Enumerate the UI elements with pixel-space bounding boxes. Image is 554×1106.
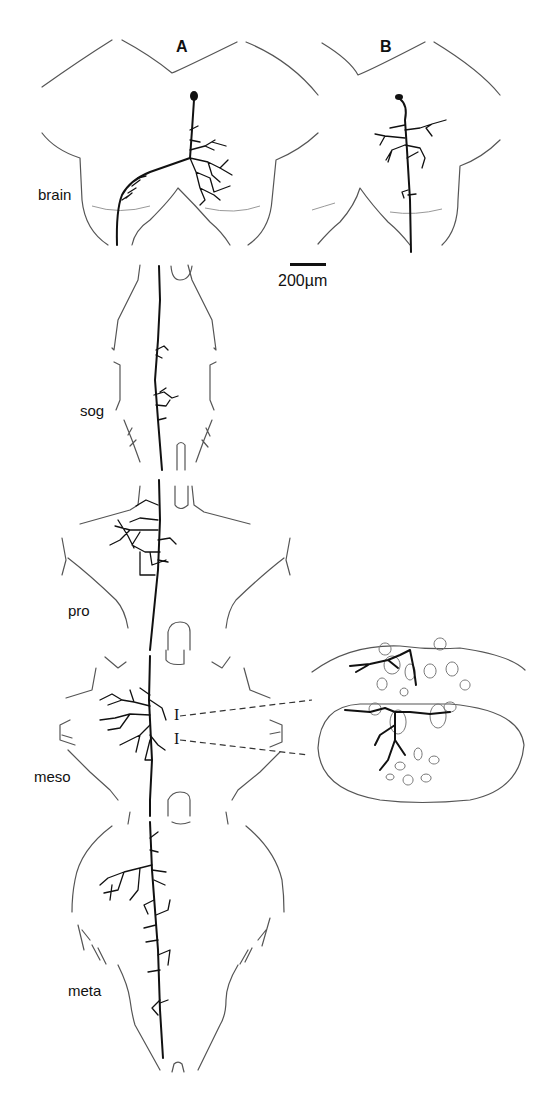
panel-label-a: A	[176, 38, 188, 56]
label-meso: meso	[34, 768, 71, 785]
brain-outline-a	[42, 40, 318, 245]
pro-outline	[62, 486, 290, 650]
neuron-a-brain	[117, 91, 232, 245]
scale-bar-label: 200µm	[278, 272, 327, 290]
label-brain: brain	[38, 186, 71, 203]
neuron-figure: A B brain sog pro meso meta 200µm I I	[0, 0, 554, 1106]
neuron-b-brain	[375, 94, 446, 252]
cross-section-lower	[318, 702, 524, 802]
label-sog: sog	[80, 402, 104, 419]
sog-outline	[112, 265, 216, 470]
meso-outline	[60, 650, 282, 824]
scale-bar	[290, 263, 326, 266]
label-pro: pro	[68, 602, 90, 619]
figure-drawing	[0, 0, 554, 1106]
section-marker-lower: I	[174, 730, 179, 748]
meta-outline	[72, 822, 284, 1072]
label-meta: meta	[68, 982, 101, 999]
cross-section-upper	[312, 638, 525, 696]
panel-label-b: B	[380, 38, 392, 56]
section-marker-upper: I	[174, 706, 179, 724]
section-connectors	[180, 700, 312, 755]
